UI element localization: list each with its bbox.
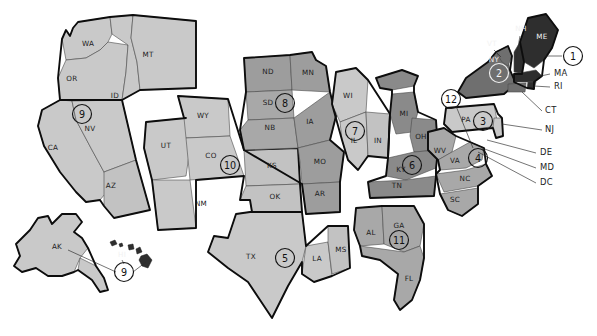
state-label-TN: TN (391, 181, 402, 190)
state-label-AL: AL (366, 228, 376, 237)
state-label-FL: FL (405, 274, 414, 283)
state-label-TX: TX (245, 252, 256, 261)
region-marker-number: 4 (475, 153, 481, 164)
region-marker-number: 5 (282, 253, 288, 264)
state-label-GA: GA (393, 221, 404, 230)
state-label-PA: PA (461, 115, 470, 124)
side-label-NJ: NJ (545, 124, 554, 134)
state-label-AZ: AZ (106, 181, 116, 190)
region-marker-number: 1 (570, 51, 576, 62)
us-region-map: WAMTORIDNVCAAZUTWYCONMNDMNSDNBIAKSMOOKAR… (0, 0, 597, 336)
leader-CT (522, 92, 542, 111)
region-marker-number: 2 (496, 68, 502, 79)
region-group-2 (458, 46, 516, 98)
region-marker-number: 9 (121, 267, 127, 278)
region-group-11 (354, 206, 424, 310)
state-label-NV: NV (85, 124, 96, 133)
state-label-WA: WA (82, 39, 94, 48)
state-label-SD: SD (263, 98, 274, 107)
state-AK-pan (78, 258, 108, 292)
region-marker-number: 7 (352, 126, 358, 137)
state-IN (366, 112, 390, 158)
leader-NJ (502, 124, 542, 130)
state-AR (302, 182, 340, 214)
state-label-UT: UT (161, 141, 172, 150)
state-label-WY: WY (197, 111, 209, 120)
state-label-WV: WV (434, 146, 447, 155)
side-label-CT: CT (545, 105, 557, 115)
state-label-MO: MO (314, 157, 327, 166)
state-label-NH: NH (515, 24, 526, 33)
region-group-9-mainland (38, 100, 150, 218)
state-label-AR: AR (315, 189, 326, 198)
state-label-WI: WI (343, 91, 353, 100)
state-label-CO: CO (205, 151, 216, 160)
state-label-NB: NB (265, 123, 276, 132)
state-label-NM: NM (195, 199, 207, 208)
state-label-IN: IN (374, 136, 382, 145)
state-NM (152, 180, 196, 230)
map-canvas: WAMTORIDNVCAAZUTWYCONMNDMNSDNBIAKSMOOKAR… (0, 0, 597, 336)
side-label-DC: DC (540, 177, 553, 187)
region-group-northwest (58, 15, 196, 100)
region-marker-number: 8 (282, 98, 288, 109)
state-label-MN: MN (302, 68, 314, 77)
region-marker-number: 11 (393, 235, 405, 246)
state-label-MT: MT (142, 50, 154, 59)
state-label-KS: KS (267, 161, 277, 170)
state-label-OK: OK (270, 192, 281, 201)
state-label-ID: ID (111, 91, 119, 100)
state-label-OH: OH (415, 132, 427, 141)
state-label-SC: SC (450, 195, 460, 204)
state-FL (360, 246, 424, 310)
state-label-KY: KY (396, 165, 406, 174)
region-marker-number: 10 (224, 160, 236, 171)
region-marker-9-noncontiguous[interactable]: 9 (115, 263, 134, 282)
state-label-LA: LA (312, 254, 322, 263)
leader-DE (487, 140, 536, 153)
region-marker-1[interactable]: 1 (564, 47, 583, 66)
state-label-VA: VA (450, 156, 460, 165)
state-label-ND: ND (262, 67, 274, 76)
state-label-MI: MI (400, 109, 409, 118)
state-label-AK: AK (52, 242, 62, 251)
state-label-IA: IA (306, 117, 314, 126)
region-marker-number: 12 (445, 94, 457, 105)
state-label-MS: MS (335, 245, 347, 254)
region-marker-12[interactable]: 12 (442, 90, 461, 109)
hawaii-islands (110, 240, 152, 268)
state-label-ME: ME (536, 32, 548, 41)
leader-RI (534, 86, 550, 87)
region-marker-number: 9 (79, 109, 85, 120)
state-label-NY: NY (489, 55, 500, 64)
state-label-NC: NC (460, 174, 471, 183)
leader-HI-to-9 (133, 262, 146, 272)
side-label-MD: MD (540, 162, 554, 172)
region-marker-number: 6 (409, 160, 415, 171)
state-label-HI: HI (118, 250, 126, 259)
state-label-OR: OR (66, 74, 77, 83)
region-marker-number: 3 (480, 116, 486, 127)
region-group-9-noncontiguous (14, 214, 152, 292)
side-label-layer: MARICTNJDEMDDC (540, 68, 568, 187)
state-label-CA: CA (48, 143, 59, 152)
side-label-RI: RI (554, 81, 563, 91)
state-label-VT: VT (487, 39, 497, 48)
state-MT (131, 15, 196, 90)
side-label-DE: DE (540, 147, 552, 157)
side-label-MA: MA (554, 68, 568, 78)
